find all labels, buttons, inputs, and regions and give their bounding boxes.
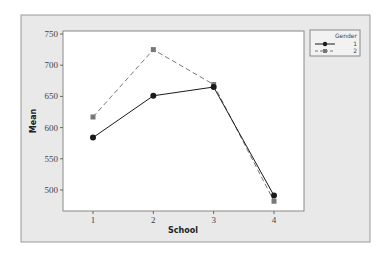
data-point — [90, 135, 96, 141]
y-tick-label: 550 — [45, 154, 59, 164]
x-tick-label: 2 — [151, 215, 156, 225]
data-point — [151, 47, 156, 52]
interaction-plot: 500550600650700750 1234 Mean School Gend… — [0, 0, 388, 254]
x-axis-title: School — [168, 226, 198, 235]
data-point — [150, 93, 156, 99]
data-point — [271, 193, 277, 199]
x-tick-label: 4 — [272, 215, 277, 225]
data-point — [211, 84, 217, 90]
x-tick-label: 1 — [91, 215, 96, 225]
legend-label: 2 — [353, 47, 357, 54]
legend: Gender 12 — [310, 30, 360, 56]
y-tick-label: 700 — [45, 60, 59, 70]
data-point — [91, 114, 96, 119]
legend-label: 1 — [353, 40, 357, 47]
y-tick-label: 500 — [45, 185, 59, 195]
y-tick-label: 750 — [45, 29, 59, 39]
legend-marker — [323, 49, 327, 53]
data-point — [272, 199, 277, 204]
y-tick-label: 650 — [45, 91, 59, 101]
legend-title: Gender — [335, 32, 358, 39]
y-tick-label: 600 — [45, 123, 59, 133]
y-axis-title: Mean — [29, 108, 38, 133]
legend-marker — [323, 42, 327, 46]
x-tick-label: 3 — [211, 215, 216, 225]
